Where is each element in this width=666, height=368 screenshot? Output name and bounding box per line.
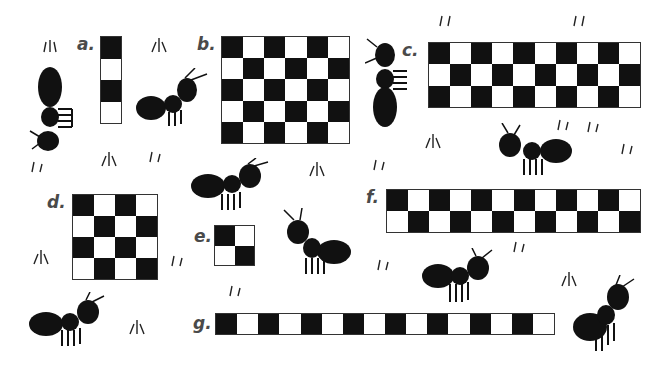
grass-icon [42, 38, 58, 54]
white-square [279, 314, 300, 334]
white-square [491, 314, 512, 334]
white-square [619, 86, 640, 107]
black-square [429, 43, 450, 64]
grid-label-a: a. [77, 34, 95, 54]
black-square [307, 37, 328, 58]
black-square [471, 190, 492, 211]
white-square [577, 86, 598, 107]
white-square [101, 59, 121, 81]
white-square [619, 190, 640, 211]
ant-icon [280, 208, 355, 278]
white-square [471, 211, 492, 232]
grass-icon [556, 118, 570, 132]
black-square [264, 37, 285, 58]
white-square [408, 190, 429, 211]
black-square [343, 314, 364, 334]
white-square [492, 43, 513, 64]
black-square [556, 190, 577, 211]
black-square [101, 80, 121, 102]
black-square [285, 58, 306, 79]
white-square [450, 86, 471, 107]
white-square [222, 58, 243, 79]
ant-icon [28, 292, 108, 352]
white-square [222, 101, 243, 122]
grid-label-b: b. [197, 34, 216, 54]
ant-icon [28, 65, 78, 155]
black-square [492, 211, 513, 232]
grid-label-e: e. [194, 226, 212, 246]
grass-icon [128, 318, 146, 336]
black-square [450, 211, 471, 232]
black-square [101, 37, 121, 59]
white-square [285, 79, 306, 100]
grass-icon [560, 270, 578, 288]
black-square [73, 195, 94, 216]
black-square [285, 101, 306, 122]
white-square [514, 211, 535, 232]
black-square [94, 216, 115, 237]
grass-icon [438, 14, 452, 28]
white-square [115, 258, 136, 279]
white-square [328, 122, 349, 143]
grass-icon [620, 142, 634, 156]
white-square [237, 314, 258, 334]
grass-icon [424, 132, 442, 150]
black-square [598, 86, 619, 107]
white-square [328, 79, 349, 100]
black-square [115, 195, 136, 216]
black-square [264, 79, 285, 100]
grid-label-f: f. [366, 187, 379, 207]
white-square [101, 102, 121, 124]
white-square [450, 190, 471, 211]
white-square [535, 190, 556, 211]
black-square [385, 314, 406, 334]
black-square [492, 64, 513, 85]
white-square [535, 86, 556, 107]
grid-label-g: g. [193, 313, 212, 333]
grass-icon [228, 284, 242, 298]
grass-icon [572, 14, 586, 28]
white-square [264, 101, 285, 122]
black-square [307, 79, 328, 100]
grass-icon [30, 160, 44, 174]
white-square [598, 211, 619, 232]
grass-icon [586, 120, 600, 134]
white-square [136, 195, 157, 216]
white-square [492, 190, 513, 211]
grass-icon [150, 36, 168, 54]
black-square [94, 258, 115, 279]
white-square [215, 246, 235, 266]
white-square [471, 64, 492, 85]
black-square [243, 101, 264, 122]
checkerboard-e [214, 225, 255, 266]
black-square [577, 64, 598, 85]
white-square [328, 37, 349, 58]
white-square [429, 211, 450, 232]
grass-icon [376, 258, 390, 272]
black-square [301, 314, 322, 334]
black-square [619, 211, 640, 232]
black-square [328, 58, 349, 79]
grid-label-d: d. [47, 192, 66, 212]
black-square [513, 86, 534, 107]
white-square [243, 79, 264, 100]
white-square [598, 64, 619, 85]
black-square [429, 86, 450, 107]
white-square [243, 37, 264, 58]
grass-icon [148, 150, 162, 164]
white-square [556, 64, 577, 85]
black-square [215, 226, 235, 246]
white-square [307, 101, 328, 122]
white-square [535, 43, 556, 64]
checkerboard-b [221, 36, 350, 144]
grass-icon [170, 254, 184, 268]
black-square [328, 101, 349, 122]
white-square [136, 237, 157, 258]
white-square [577, 43, 598, 64]
ant-icon [190, 158, 270, 213]
black-square [235, 246, 255, 266]
black-square [619, 64, 640, 85]
black-square [307, 122, 328, 143]
white-square [285, 37, 306, 58]
white-square [264, 58, 285, 79]
